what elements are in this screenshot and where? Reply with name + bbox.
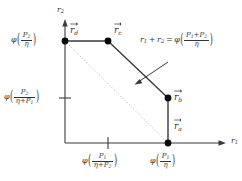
y-axis [62,19,67,143]
boundary-sloped [108,41,168,98]
y-tick-label-mid: φ(P2η+P1) [4,89,40,106]
line-equation-annotation: r1 + r2 = φ(P1+P2η) [140,32,213,48]
y-tick-label-top: φ(P2η) [11,32,37,48]
point-r-b [165,95,172,102]
region-diagram-figure: r1 r2 ra rb rc [0,0,242,181]
y-axis-label: r2 [57,6,64,15]
x-tick-label-right: φ(P1η) [150,153,176,169]
point-label-r-c: rc [114,25,122,36]
x-tick-label-mid: φ(P1η+P2) [82,153,118,170]
x-axis-label: r1 [231,137,238,146]
x-axis [65,140,226,145]
point-r-a [165,140,172,147]
point-label-r-b: rb [174,92,182,103]
point-label-r-a: ra [174,121,182,132]
point-r-d [62,38,69,45]
dotted-diagonal-chord [65,41,168,143]
point-r-c [105,38,112,45]
point-label-r-d: rd [70,25,78,36]
